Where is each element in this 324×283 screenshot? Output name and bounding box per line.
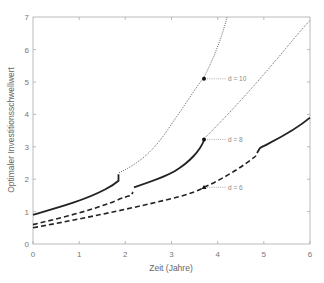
y-tick-1: 1 xyxy=(25,208,30,217)
x-tick-4: 4 xyxy=(215,250,220,259)
y-tick-5: 5 xyxy=(25,78,30,87)
d8-dashed-segment xyxy=(33,192,133,225)
y-tick-6: 6 xyxy=(25,46,30,55)
annotation-d8: d = 8 xyxy=(202,136,243,143)
d10-label: d = 10 xyxy=(228,75,247,82)
d6-solid-segment xyxy=(257,118,310,153)
y-tick-2: 2 xyxy=(25,175,30,184)
y-tick-3: 3 xyxy=(25,143,30,152)
y-tick-4: 4 xyxy=(25,110,30,119)
x-tick-3: 3 xyxy=(169,250,174,259)
x-tick-1: 1 xyxy=(77,250,82,259)
d10-marker xyxy=(202,77,206,81)
x-tick-2: 2 xyxy=(123,250,128,259)
x-tick-6: 6 xyxy=(308,250,313,259)
annotation-d6: d = 6 xyxy=(202,184,244,191)
axes-frame xyxy=(33,17,310,244)
annotation-d10: d = 10 xyxy=(202,75,247,82)
y-axis-label: Optimaler Investitionsschwellwert xyxy=(6,67,16,193)
series-d8 xyxy=(33,20,310,224)
x-axis xyxy=(33,17,310,244)
x-tick-5: 5 xyxy=(262,250,267,259)
x-axis-label: Zeit (Jahre) xyxy=(149,263,193,273)
y-tick-7: 7 xyxy=(25,13,30,22)
chart: 0 1 2 3 4 5 6 0 1 2 3 4 5 6 7 Zeit (Jahr… xyxy=(0,0,324,283)
d8-solid-segment xyxy=(134,141,204,188)
d10-dotted-segment xyxy=(119,17,227,173)
d10-solid-segment xyxy=(33,174,119,215)
y-axis xyxy=(33,50,310,212)
x-tick-0: 0 xyxy=(31,250,36,259)
y-tick-0: 0 xyxy=(25,240,30,249)
d8-marker xyxy=(202,137,206,141)
series-d10 xyxy=(33,17,227,215)
y-tick-labels: 0 1 2 3 4 5 6 7 xyxy=(25,13,30,249)
d6-label: d = 6 xyxy=(228,184,243,191)
d8-label: d = 8 xyxy=(228,136,243,143)
x-tick-labels: 0 1 2 3 4 5 6 xyxy=(31,250,313,259)
d8-dotted-segment xyxy=(204,20,310,138)
